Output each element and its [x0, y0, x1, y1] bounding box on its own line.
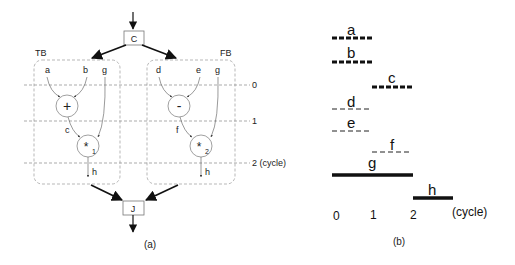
axis-tick-0: 0	[333, 209, 340, 223]
axis-tick-2: 2	[410, 208, 417, 222]
cycle-label-0: 0	[252, 80, 257, 90]
lifetime-label-c: c	[388, 69, 396, 86]
fb-intermediate-f: f	[176, 125, 179, 135]
tb-input-b: b	[83, 65, 88, 75]
cycle-label-1: 1	[252, 116, 257, 126]
tb-join-arrow	[91, 185, 122, 200]
cdfg-diagram: 0 1 2 (cycle) C TB a b g + c * 1 h FB d …	[24, 12, 286, 250]
false-branch-arrow	[142, 45, 176, 58]
multiply-2-symbol: *	[197, 140, 202, 154]
false-branch-box	[147, 60, 235, 184]
fb-output-h: h	[205, 167, 210, 177]
cycle-label-2: 2 (cycle)	[252, 158, 286, 168]
lifetime-label-f: f	[390, 136, 395, 153]
diagram-canvas: 0 1 2 (cycle) C TB a b g + c * 1 h FB d …	[0, 0, 515, 265]
tb-input-g: g	[102, 65, 107, 75]
lifetime-label-g: g	[368, 154, 376, 171]
condition-node-label: C	[131, 34, 138, 44]
tb-output-h: h	[92, 167, 97, 177]
tb-input-a: a	[45, 65, 50, 75]
caption-a: (a)	[144, 239, 156, 250]
tb-intermediate-c: c	[65, 125, 70, 135]
fb-join-arrow	[146, 185, 178, 200]
axis-unit: (cycle)	[452, 205, 487, 219]
lifetime-label-b: b	[347, 44, 355, 61]
subtract-operation-symbol: -	[177, 98, 182, 114]
true-branch-box	[34, 60, 120, 184]
join-node-label: J	[131, 204, 136, 214]
add-operation-symbol: +	[63, 98, 71, 114]
fb-input-d: d	[156, 65, 161, 75]
multiply-1-symbol: *	[84, 140, 89, 154]
lifetime-label-d: d	[347, 93, 355, 110]
true-branch-label: TB	[35, 48, 47, 58]
axis-tick-1: 1	[370, 208, 377, 222]
lifetime-chart: a b c d e f g h 0 1 2 (cycle) (b)	[332, 21, 487, 247]
caption-b: (b)	[393, 236, 405, 247]
true-branch-arrow	[92, 45, 126, 58]
fb-input-g: g	[215, 65, 220, 75]
multiply-2-subscript: 2	[205, 148, 209, 155]
lifetime-label-a: a	[347, 21, 356, 38]
lifetime-label-h: h	[428, 181, 436, 198]
fb-input-e: e	[196, 65, 201, 75]
false-branch-label: FB	[220, 48, 232, 58]
multiply-1-subscript: 1	[92, 148, 96, 155]
lifetime-label-e: e	[347, 114, 355, 131]
